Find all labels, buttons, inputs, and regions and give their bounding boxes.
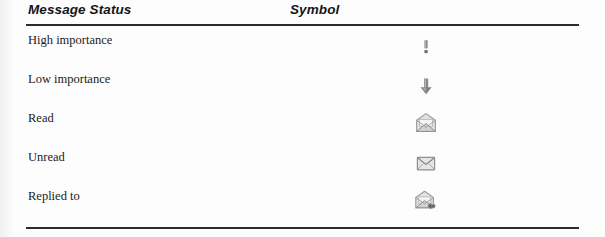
- table-top-rule: [26, 24, 579, 26]
- row-symbol-cell: [406, 74, 446, 104]
- open-envelope-icon: [413, 110, 439, 136]
- row-symbol-cell: [406, 150, 446, 180]
- exclamation-mark-icon: [413, 35, 439, 61]
- row-symbol-cell: [406, 188, 446, 218]
- row-symbol-cell: [406, 35, 446, 65]
- column-header-symbol: Symbol: [290, 2, 339, 17]
- table-row: Low importance: [26, 72, 579, 111]
- closed-envelope-icon: [413, 150, 439, 176]
- table-header-row: Message Status Symbol: [26, 2, 579, 26]
- document-page: Message Status Symbol High importance Lo…: [0, 0, 605, 237]
- message-status-table: Message Status Symbol High importance Lo…: [26, 0, 579, 237]
- table-row: Unread: [26, 150, 579, 189]
- row-label-unread: Unread: [28, 150, 65, 165]
- column-header-message-status: Message Status: [28, 2, 131, 17]
- row-label-high-importance: High importance: [28, 33, 112, 48]
- row-label-replied-to: Replied to: [28, 189, 80, 204]
- table-row: High importance: [26, 33, 579, 72]
- row-label-low-importance: Low importance: [28, 72, 110, 87]
- row-label-read: Read: [28, 111, 54, 126]
- down-arrow-icon: [413, 74, 439, 100]
- row-symbol-cell: [406, 110, 446, 140]
- table-bottom-rule: [26, 227, 579, 229]
- table-row: Read: [26, 111, 579, 150]
- envelope-reply-arrow-icon: [413, 188, 439, 214]
- table-row: Replied to: [26, 189, 579, 228]
